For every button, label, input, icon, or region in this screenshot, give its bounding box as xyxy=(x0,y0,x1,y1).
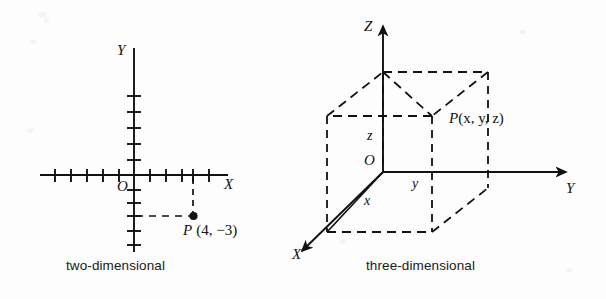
box-top-diagonals-3d xyxy=(383,72,432,116)
point-label-p-2d: P(4, −3) xyxy=(183,222,237,239)
edge-label-z-3d: z xyxy=(367,128,372,144)
box-bottom-face-3d xyxy=(327,188,488,232)
point-label-p-3d-coords: (x, y, z) xyxy=(458,110,504,126)
edge-label-x-3d: x xyxy=(364,193,370,209)
caption-three-dimensional: three-dimensional xyxy=(366,258,475,273)
x-axis-label-3d: X xyxy=(292,246,301,263)
point-marker-p-2d xyxy=(189,212,197,220)
panel-three-dimensional xyxy=(302,26,566,251)
x-axis-label-2d: X xyxy=(224,176,233,193)
edge-x-foot-to-origin-3d xyxy=(327,172,383,232)
figure-drawing xyxy=(0,0,606,299)
point-label-p-2d-coords: (4, −3) xyxy=(196,222,237,238)
y-axis-label-3d: Y xyxy=(566,180,574,197)
y-axis-label-2d: Y xyxy=(117,42,125,59)
origin-label-3d: O xyxy=(364,152,375,169)
z-axis-label-3d: Z xyxy=(364,18,372,35)
figure-root: Y X O P(4, −3) two-dimensional Z Y X O z… xyxy=(0,0,606,299)
point-label-p-3d-letter: P xyxy=(449,110,458,126)
edge-label-y-3d: y xyxy=(412,176,418,192)
point-label-p-2d-letter: P xyxy=(183,222,192,238)
caption-two-dimensional: two-dimensional xyxy=(66,258,165,273)
origin-label-2d: O xyxy=(117,178,128,195)
point-label-p-3d: P(x, y, z) xyxy=(449,110,504,127)
